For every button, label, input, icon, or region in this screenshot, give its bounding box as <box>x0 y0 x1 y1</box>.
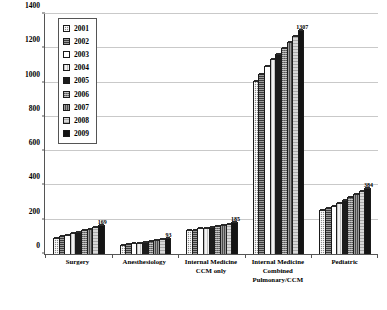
legend-swatch-icon <box>63 38 70 45</box>
legend-swatch-icon <box>63 25 70 32</box>
bar[interactable]: 384 <box>364 188 371 254</box>
legend-item[interactable]: 2002 <box>63 35 89 48</box>
bar-value-label: 384 <box>364 182 373 188</box>
legend-item-label: 2006 <box>74 90 89 99</box>
category-label-line: Internal Medicine <box>179 258 244 267</box>
legend-item[interactable]: 2007 <box>63 101 89 114</box>
bar[interactable]: 185 <box>231 222 238 254</box>
legend-item[interactable]: 2003 <box>63 48 89 61</box>
legend-swatch-icon <box>63 104 70 111</box>
legend-item[interactable]: 2006 <box>63 87 89 100</box>
bars-wrap: 93 <box>120 14 171 254</box>
legend-item-label: 2001 <box>74 24 89 33</box>
category-label-line: Surgery <box>45 258 110 267</box>
y-axis-tick-label: 400 <box>29 172 45 181</box>
category-label-line: Internal Medicine <box>245 258 310 267</box>
legend-swatch-icon <box>63 130 70 137</box>
legend-item-label: 2005 <box>74 76 89 85</box>
legend-item-label: 2002 <box>74 37 89 46</box>
y-axis-tick-label: 1000 <box>25 69 45 78</box>
legend-swatch-icon <box>63 51 70 58</box>
bar-value-label: 1307 <box>296 24 308 30</box>
bar-value-label: 185 <box>231 216 240 222</box>
y-axis-tick-label: 800 <box>29 103 45 112</box>
bar-group: 384 <box>311 14 378 254</box>
legend-item[interactable]: 2001 <box>63 22 89 35</box>
legend-item-label: 2009 <box>74 129 89 138</box>
category-label: Pediatric <box>311 258 378 285</box>
legend-item-label: 2003 <box>74 50 89 59</box>
y-axis-tick-label: 1200 <box>25 35 45 44</box>
bar[interactable]: 1307 <box>298 30 305 254</box>
legend-item[interactable]: 2005 <box>63 74 89 87</box>
bar-value-label: 169 <box>98 219 107 225</box>
bar[interactable]: 93 <box>165 238 172 254</box>
category-label-line: Pediatric <box>312 258 377 267</box>
bar-group: 93 <box>112 14 179 254</box>
bar-value-label: 93 <box>165 232 171 238</box>
y-axis-tick-label: 200 <box>29 206 45 215</box>
legend-swatch-icon <box>63 117 70 124</box>
legend-swatch-icon <box>63 91 70 98</box>
bars-wrap: 1307 <box>253 14 304 254</box>
bar-group: 1307 <box>245 14 312 254</box>
y-axis-tick-label: 0 <box>36 241 45 250</box>
legend: 200120022003200420052006200720082009 <box>58 18 97 144</box>
bar[interactable]: 169 <box>98 225 105 254</box>
category-label: Internal MedicineCombinedPulmonary/CCM <box>244 258 311 285</box>
legend-swatch-icon <box>63 64 70 71</box>
legend-item-label: 2007 <box>74 103 89 112</box>
category-label: Internal MedicineCCM only <box>178 258 245 285</box>
category-label-line: Pulmonary/CCM <box>245 276 310 285</box>
legend-item[interactable]: 2008 <box>63 114 89 127</box>
category-label: Surgery <box>44 258 111 285</box>
y-axis-tick-label: 1400 <box>25 1 45 10</box>
bars-wrap: 185 <box>186 14 237 254</box>
legend-item[interactable]: 2004 <box>63 61 89 74</box>
bars-wrap: 384 <box>319 14 370 254</box>
y-axis-tick-label: 600 <box>29 138 45 147</box>
category-label-line: CCM only <box>179 267 244 276</box>
bar-group: 185 <box>178 14 245 254</box>
legend-item-label: 2004 <box>74 63 89 72</box>
category-label-line: Anesthesiology <box>112 258 177 267</box>
bar-chart: 0200400600800100012001400 16993185130738… <box>0 0 387 310</box>
category-label-line: Combined <box>245 267 310 276</box>
legend-swatch-icon <box>63 77 70 84</box>
legend-item-label: 2008 <box>74 116 89 125</box>
legend-item[interactable]: 2009 <box>63 127 89 140</box>
category-axis-labels: SurgeryAnesthesiologyInternal MedicineCC… <box>44 258 378 285</box>
category-label: Anesthesiology <box>111 258 178 285</box>
